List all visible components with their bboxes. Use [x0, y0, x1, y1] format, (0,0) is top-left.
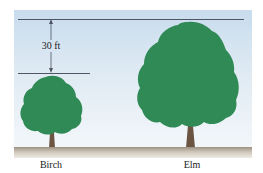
birch-label: Birch: [30, 159, 72, 170]
ground: [14, 147, 252, 158]
dimension-label: 30 ft: [28, 40, 74, 51]
elm-tree: [137, 22, 239, 148]
birch-height-line: [18, 73, 90, 74]
elm-label: Elm: [172, 159, 212, 170]
birch-foliage: [20, 76, 82, 135]
elm-foliage: [137, 22, 239, 128]
elm-height-line: [18, 19, 244, 20]
birch-tree: [20, 76, 82, 148]
